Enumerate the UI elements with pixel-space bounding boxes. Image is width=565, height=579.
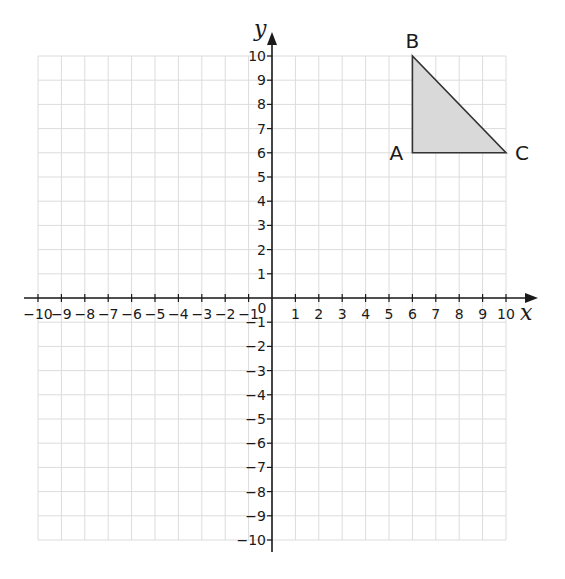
y-axis-label: y [253, 16, 267, 41]
y-tick-label: 3 [257, 217, 266, 233]
x-tick-label: −4 [168, 306, 189, 322]
y-tick-label: −7 [245, 459, 266, 475]
y-tick-label: 5 [257, 169, 266, 185]
y-tick-label: −4 [245, 387, 266, 403]
origin-label: 0 [258, 300, 267, 316]
x-tick-label: 7 [431, 306, 440, 322]
y-tick-label: 10 [248, 48, 266, 64]
y-tick-label: −5 [245, 411, 266, 427]
x-tick-label: 6 [408, 306, 417, 322]
y-tick-label: 2 [257, 242, 266, 258]
y-tick-label: 7 [257, 121, 266, 137]
y-tick-label: 4 [257, 193, 266, 209]
coordinate-plane: xy−10−9−8−7−6−5−4−3−2−112345678910−10−9−… [0, 0, 565, 579]
y-tick-label: −1 [245, 314, 266, 330]
x-tick-label: −10 [23, 306, 53, 322]
x-tick-label: 2 [314, 306, 323, 322]
x-tick-label: −8 [74, 306, 95, 322]
x-tick-label: −9 [51, 306, 72, 322]
y-tick-label: −6 [245, 435, 266, 451]
x-tick-label: −3 [191, 306, 212, 322]
x-axis-label: x [520, 300, 533, 325]
y-tick-label: 8 [257, 96, 266, 112]
vertex-label-c: C [515, 141, 529, 165]
tick-labels: xy−10−9−8−7−6−5−4−3−2−112345678910−10−9−… [23, 16, 533, 548]
y-tick-label: −3 [245, 363, 266, 379]
x-tick-label: 5 [385, 306, 394, 322]
y-tick-label: −9 [245, 508, 266, 524]
y-tick-label: −8 [245, 484, 266, 500]
y-tick-label: −10 [236, 532, 266, 548]
x-tick-label: 1 [291, 306, 300, 322]
x-tick-label: −2 [215, 306, 236, 322]
y-tick-label: −2 [245, 338, 266, 354]
y-tick-label: 9 [257, 72, 266, 88]
y-tick-label: 6 [257, 145, 266, 161]
vertex-label-b: B [406, 29, 420, 53]
vertex-label-a: A [390, 141, 404, 165]
x-tick-label: 8 [455, 306, 464, 322]
y-axis-arrow-icon [267, 32, 277, 45]
x-tick-label: 9 [478, 306, 487, 322]
x-tick-label: 4 [361, 306, 370, 322]
x-tick-label: 3 [338, 306, 347, 322]
x-tick-label: 10 [497, 306, 515, 322]
x-tick-label: −5 [145, 306, 166, 322]
y-tick-label: 1 [257, 266, 266, 282]
x-tick-label: −6 [121, 306, 142, 322]
x-tick-label: −7 [98, 306, 119, 322]
